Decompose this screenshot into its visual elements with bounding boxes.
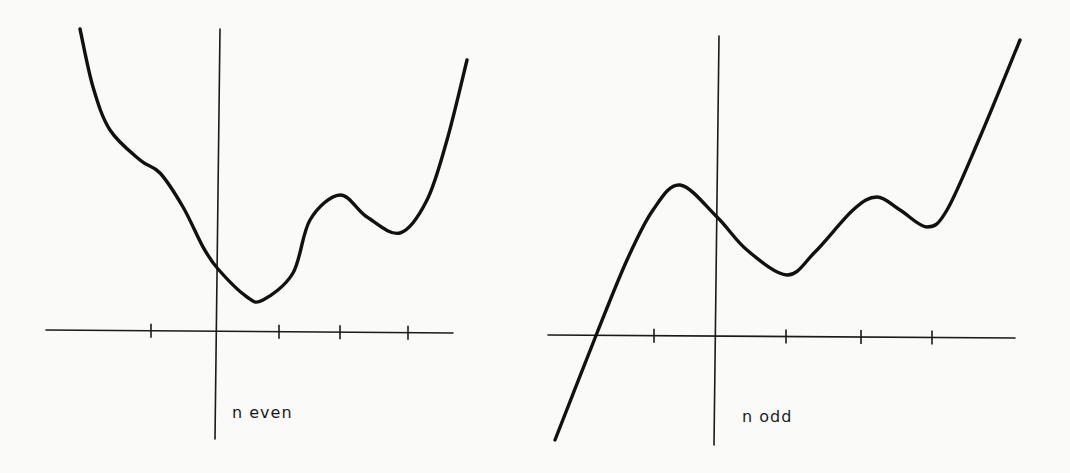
panel-n-odd: n odd [548, 36, 1020, 445]
y-axis [215, 29, 220, 439]
panel-label: n odd [742, 407, 792, 426]
polynomial-graphs-figure: n even n odd [0, 0, 1070, 473]
polynomial-curve [555, 40, 1020, 440]
x-axis [548, 335, 1015, 338]
polynomial-curve [80, 29, 467, 302]
y-axis [714, 36, 719, 445]
panel-n-even: n even [46, 29, 467, 439]
x-axis [46, 330, 453, 333]
panel-label: n even [232, 403, 293, 422]
